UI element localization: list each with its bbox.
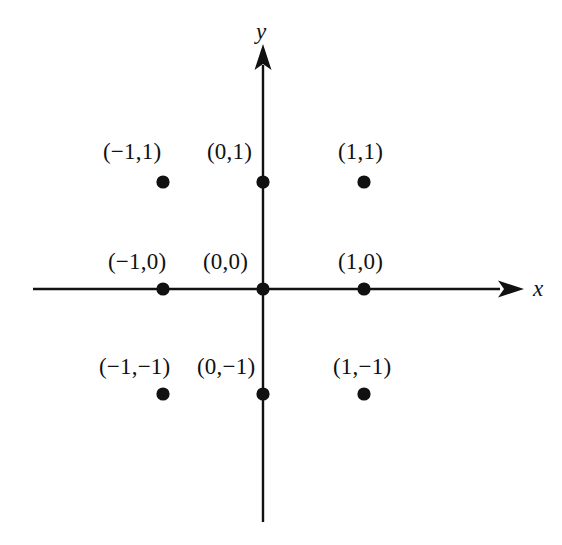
data-point — [256, 282, 269, 295]
point-label-0-neg1: (0,−1) — [197, 355, 255, 378]
data-point — [256, 387, 269, 400]
point-label-neg1-neg1: (−1,−1) — [99, 355, 170, 378]
data-point — [156, 387, 169, 400]
axes-and-points-graphic — [0, 0, 562, 545]
data-point — [156, 175, 169, 188]
x-axis-arrowhead — [498, 281, 524, 298]
point-label-0-1: (0,1) — [207, 140, 252, 163]
point-label-0-0: (0,0) — [203, 250, 248, 273]
coordinate-plane-figure: y x (−1,1) (0,1) (1,1) (−1,0) (0,0) (1,0… — [0, 0, 562, 545]
point-label-1-1: (1,1) — [338, 140, 383, 163]
data-point — [357, 387, 370, 400]
data-point — [357, 175, 370, 188]
point-label-neg1-0: (−1,0) — [108, 250, 166, 273]
data-point — [156, 282, 169, 295]
data-point — [357, 282, 370, 295]
point-label-1-neg1: (1,−1) — [333, 355, 391, 378]
x-axis-label: x — [533, 277, 543, 300]
y-axis-label: y — [256, 20, 266, 43]
data-point — [256, 175, 269, 188]
point-label-neg1-1: (−1,1) — [103, 140, 161, 163]
point-label-1-0: (1,0) — [338, 250, 383, 273]
